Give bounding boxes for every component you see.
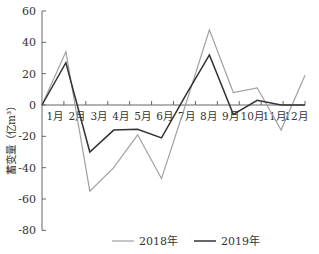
legend: 2018年2019年 [112, 234, 260, 248]
line-chart: 6040200-20-40-60-80 1月2月3月4月5月6月7月8月9月10… [0, 0, 319, 254]
y-tick-label: -40 [18, 162, 36, 175]
legend-label: 2018年 [139, 234, 178, 248]
y-tick-label: 40 [22, 36, 36, 49]
y-tick-label: -20 [18, 130, 36, 143]
legend-label: 2019年 [221, 234, 260, 248]
x-tick-label: 8月 [200, 110, 217, 122]
y-tick-label: -80 [18, 224, 36, 237]
x-tick-label: 1月 [47, 110, 64, 122]
y-tick-label: -60 [18, 193, 36, 206]
x-tick-label: 11月 [262, 110, 285, 122]
x-tick-label: 6月 [156, 110, 173, 122]
x-tick-label: 5月 [134, 110, 151, 122]
y-tick-label: 60 [22, 5, 36, 18]
y-tick-label: 20 [22, 68, 36, 81]
y-axis-label: 蓄变量（亿m³） [5, 101, 17, 175]
y-axis: 6040200-20-40-60-80 [18, 5, 46, 237]
x-tick-label: 3月 [90, 110, 107, 122]
y-tick-label: 0 [29, 99, 36, 112]
x-tick-label: 9月 [222, 110, 239, 122]
x-tick-label: 4月 [112, 110, 129, 122]
chart-canvas: 6040200-20-40-60-80 1月2月3月4月5月6月7月8月9月10… [0, 0, 319, 254]
x-tick-label: 10月 [241, 110, 264, 122]
x-axis: 1月2月3月4月5月6月7月8月9月10月11月12月 [42, 101, 308, 122]
